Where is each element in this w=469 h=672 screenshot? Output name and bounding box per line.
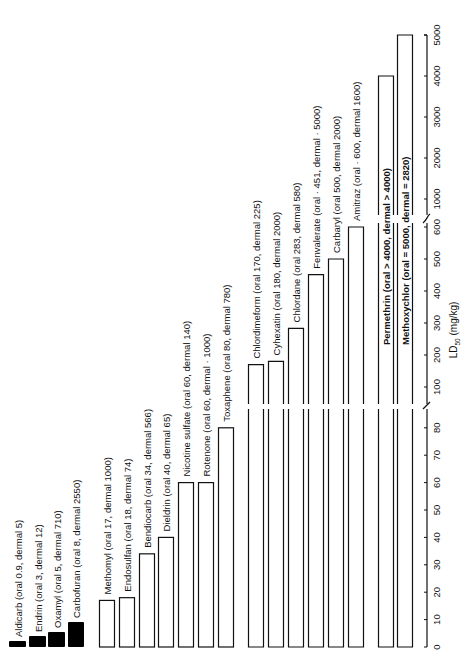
axis-tick-label: 40 [431, 532, 442, 543]
bar-nicotine-sulfate [179, 483, 194, 647]
bar-label: Chlordane (oral 283, dermal 580) [291, 182, 302, 322]
bar-amitraz [349, 227, 364, 647]
axis-tick-label: 600 [431, 219, 442, 235]
bar-endosulfan [120, 598, 135, 647]
bar-label: Rotenone (oral 60, dermal · 1000) [201, 333, 212, 476]
bar-permethrin [379, 76, 394, 647]
bar-label: Carbofuran (oral 8, dermal 2550) [71, 480, 82, 618]
axis-tick-label: 3000 [431, 106, 442, 127]
axis-tick-label: 200 [431, 347, 442, 363]
axis-tick-label: 400 [431, 283, 442, 299]
bar-label: Fenvalerate (oral · 451, dermal · 5000) [311, 106, 322, 269]
bar-carbofuran [68, 622, 84, 647]
ld50-bar-chart: Aldicarb (oral 0.9, dermal 5)Endrin (ora… [0, 0, 469, 672]
bar-label: Carbaryl (oral 500, dermal 2000) [331, 116, 342, 253]
bar-methomyl [100, 600, 115, 647]
bar-label: Chlordimeform (oral 170, dermal 225) [251, 200, 262, 358]
bar-endrin [29, 636, 46, 647]
bar-fenvalerate [309, 275, 324, 647]
chart-canvas: Aldicarb (oral 0.9, dermal 5)Endrin (ora… [0, 0, 469, 672]
bar-rotenone [199, 483, 214, 647]
bar-label: Cyhexatin (oral 180, dermal 2000) [271, 212, 282, 356]
bar-bendiocarb [140, 554, 155, 647]
axis-tick-label: 4000 [431, 65, 442, 86]
axis-break-icon [423, 214, 430, 223]
bar-label: Endosulfan (oral 18, dermal 74) [122, 459, 133, 592]
axis-tick-label: 5000 [431, 24, 442, 45]
axis-tick-label: 50 [431, 505, 442, 516]
bar-label: Amitraz (oral · 600, dermal 1600) [351, 82, 362, 221]
bar-label: Endrin (oral 3, dermal 12) [33, 524, 44, 632]
axis-tick-label: 70 [431, 450, 442, 461]
bar-label: Methoxychlor (oral = 5000, dermal = 2820… [400, 156, 411, 345]
bar-label: Toxaphene (oral 80, dermal 780) [221, 284, 232, 421]
bar-label: Aldicarb (oral 0.9, dermal 5) [13, 520, 24, 637]
bar-carbaryl [329, 259, 344, 647]
axis-tick-label: 2000 [431, 147, 442, 168]
bar-aldicarb [9, 641, 26, 647]
axis-tick-label: 300 [431, 315, 442, 331]
bar-oxamyl [48, 632, 65, 647]
axis-tick-label: 0 [431, 644, 442, 649]
axis-tick-label: 80 [431, 423, 442, 434]
bar-label: Oxamyl (oral 5, dermal 710) [52, 510, 63, 628]
axis-tick-label: 60 [431, 477, 442, 488]
axis-tick-label: 20 [431, 587, 442, 598]
bar-chlordimeform [249, 365, 264, 647]
bar-label: Bendiocarb (oral 34, dermal 566) [142, 409, 153, 548]
bar-chlordane [289, 328, 304, 647]
bar-label: Permethrin (oral > 4000, dermal > 4000) [381, 168, 392, 345]
bar-label: Nicotine sulfate (oral 60, dermal 140) [181, 321, 192, 477]
axis-title: LD50 (mg/kg) [448, 302, 461, 359]
bar-toxaphene [219, 428, 234, 647]
value-axis: 0102030405060708010020030040050060010002… [423, 24, 461, 649]
bar-label: Methomyl (oral 17, dermal 1000) [102, 457, 113, 594]
axis-tick-label: 10 [431, 614, 442, 625]
axis-tick-label: 100 [431, 379, 442, 395]
axis-tick-label: 500 [431, 251, 442, 267]
axis-tick-label: 1000 [431, 188, 442, 209]
bar-dieldrin [159, 537, 174, 647]
axis-tick-label: 30 [431, 560, 442, 571]
bar-label: Dieldrin (oral 40, dermal 65) [161, 414, 172, 532]
bar-cyhexatin [269, 361, 284, 647]
